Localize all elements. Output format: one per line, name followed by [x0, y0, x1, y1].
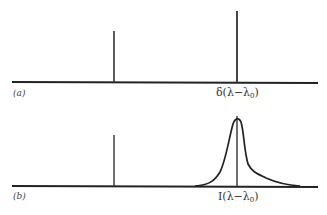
line-label-a-close: ): [255, 86, 259, 99]
panel-b: [12, 116, 318, 187]
axis-b: [12, 186, 318, 187]
panel-label-b: (b): [13, 191, 26, 201]
line-label-a-main: δ(λ−λ: [216, 86, 250, 99]
panel-label-a: (a): [13, 88, 25, 98]
line-label-b: I(λ−λ0): [218, 190, 259, 204]
line-label-a: δ(λ−λ0): [216, 86, 259, 100]
broadened-line-profile: [195, 119, 300, 186]
line-label-b-main: I(λ−λ: [218, 190, 250, 203]
spectral-line-diagram: [0, 0, 327, 215]
axis-a: [12, 82, 318, 83]
line-label-b-close: ): [254, 190, 258, 203]
panel-a: [12, 11, 318, 83]
